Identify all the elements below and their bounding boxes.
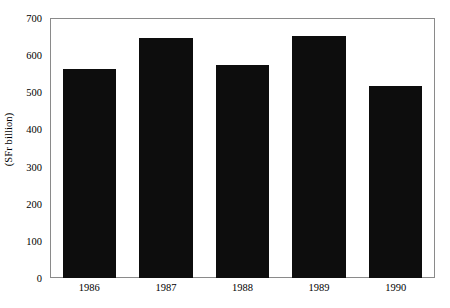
bar	[63, 69, 116, 278]
x-axis-tick-labels: 19861987198819891990	[51, 282, 434, 304]
y-axis-tick-label: 100	[26, 235, 42, 246]
y-axis-title: (SFr billion)	[0, 0, 18, 278]
bar	[139, 38, 192, 279]
y-axis-tick-label: 0	[37, 273, 42, 284]
y-axis-title-text: (SFr billion)	[4, 112, 15, 166]
y-axis-tick-label: 600	[26, 50, 42, 61]
bar	[216, 65, 269, 278]
y-axis-tick-label: 200	[26, 198, 42, 209]
y-axis-tick-label: 400	[26, 124, 42, 135]
x-axis-tick-label: 1990	[385, 282, 406, 293]
y-axis-tick-label: 300	[26, 161, 42, 172]
y-axis-tick-label: 500	[26, 87, 42, 98]
y-axis-tick-labels: 0100200300400500600700	[18, 0, 46, 308]
bar	[292, 36, 345, 278]
y-axis-tick-label: 700	[26, 13, 42, 24]
x-axis-tick-label: 1989	[309, 282, 330, 293]
x-axis-tick-label: 1986	[79, 282, 100, 293]
x-axis-tick-label: 1987	[155, 282, 176, 293]
bar	[369, 86, 422, 278]
bars-layer	[51, 19, 434, 278]
x-axis-tick-label: 1988	[232, 282, 253, 293]
bar-chart: (SFr billion) 0100200300400500600700 198…	[0, 0, 450, 308]
